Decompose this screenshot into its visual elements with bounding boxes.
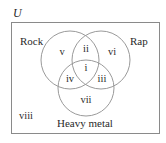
set-label-rock: Rock <box>20 35 44 47</box>
set-label-heavy-metal: Heavy metal <box>57 117 113 129</box>
venn-diagram: U Rock Rap Heavy metal v ii vi i iv iii … <box>0 0 166 143</box>
region-label-i: i <box>85 62 88 73</box>
region-label-ii: ii <box>83 43 89 54</box>
region-label-vii: vii <box>80 94 91 105</box>
region-label-iii: iii <box>98 73 107 84</box>
set-label-rap: Rap <box>130 35 148 47</box>
region-label-viii: viii <box>19 110 33 121</box>
universe-label: U <box>13 6 23 20</box>
region-label-v: v <box>59 46 65 57</box>
region-label-vi: vi <box>108 46 116 57</box>
region-label-iv: iv <box>66 73 75 84</box>
